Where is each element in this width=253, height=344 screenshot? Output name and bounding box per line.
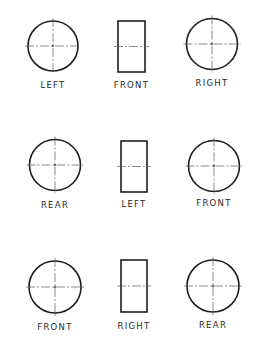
view-label: REAR	[199, 320, 227, 330]
view-label: LEFT	[40, 80, 65, 90]
background	[0, 0, 253, 344]
center-point	[211, 43, 213, 45]
center-point	[52, 45, 54, 47]
view-label: LEFT	[121, 199, 146, 209]
orthographic-views-diagram: LEFTFRONTRIGHTREARLEFTFRONTFRONTRIGHTREA…	[0, 0, 253, 344]
view-label: RIGHT	[117, 321, 150, 331]
view-label: FRONT	[114, 80, 150, 90]
view-label: FRONT	[37, 322, 73, 332]
view-label: REAR	[41, 200, 69, 210]
center-point	[213, 165, 215, 167]
view-label: FRONT	[196, 198, 232, 208]
center-point	[54, 164, 56, 166]
center-point	[212, 285, 214, 287]
view-label: RIGHT	[195, 78, 228, 88]
center-point	[54, 286, 56, 288]
